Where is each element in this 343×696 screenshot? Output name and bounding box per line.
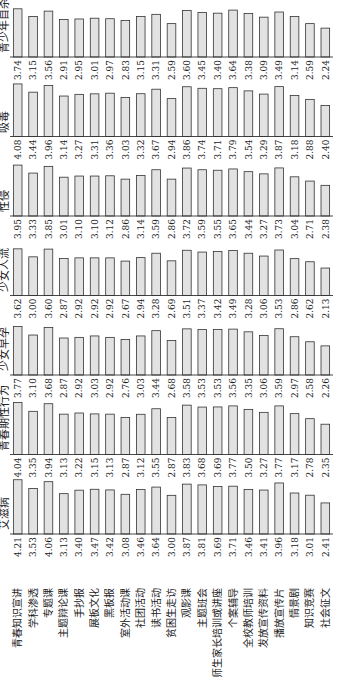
bar	[75, 413, 84, 455]
value-label: 3.65	[228, 219, 238, 239]
value-label: 4.21	[13, 537, 23, 557]
value-label: 3.53	[197, 378, 207, 398]
value-label: 2.13	[321, 298, 331, 318]
panel-title: 青少年自杀	[0, 0, 11, 53]
bar	[90, 258, 99, 296]
value-label: 4.06	[44, 537, 54, 557]
bar	[44, 166, 53, 216]
bar	[44, 11, 53, 57]
value-label: 3.87	[274, 139, 284, 159]
bar	[213, 251, 222, 295]
bar	[244, 13, 253, 57]
value-label: 2.91	[59, 60, 69, 80]
bar	[121, 97, 130, 136]
value-label: 3.72	[182, 219, 192, 239]
bar	[121, 339, 130, 375]
value-label: 3.44	[244, 219, 254, 239]
value-label: 3.08	[121, 537, 131, 557]
bar	[136, 258, 145, 296]
value-label: 3.55	[151, 457, 161, 477]
value-label: 3.15	[28, 60, 38, 80]
bar	[75, 94, 84, 136]
bar	[198, 13, 207, 57]
bar	[167, 418, 176, 455]
value-label: 4.04	[13, 457, 23, 477]
value-label: 3.14	[290, 60, 300, 80]
value-label: 3.37	[197, 298, 207, 318]
category-label: 师生家长培训或讲座	[211, 588, 223, 678]
bar	[13, 249, 22, 296]
bar	[29, 92, 38, 136]
value-label: 2.68	[167, 378, 177, 398]
bar	[275, 250, 284, 295]
value-label: 3.44	[151, 378, 161, 398]
bar	[44, 85, 53, 136]
bar	[290, 414, 299, 455]
bar	[244, 253, 253, 295]
bar	[198, 170, 207, 216]
value-label: 3.67	[151, 139, 161, 159]
bar	[321, 346, 330, 375]
value-label: 3.94	[44, 457, 54, 477]
value-label: 3.22	[74, 458, 84, 478]
category-label: 贫困生走访	[165, 588, 177, 638]
bar	[60, 414, 69, 454]
value-label: 3.06	[259, 298, 269, 318]
value-label: 3.35	[28, 457, 38, 477]
bar	[152, 331, 161, 375]
bar	[60, 494, 69, 534]
bar	[90, 94, 99, 137]
value-label: 3.54	[244, 139, 254, 159]
bar	[13, 326, 22, 375]
bar	[183, 168, 192, 216]
value-label: 3.04	[290, 219, 300, 239]
bar	[106, 176, 115, 216]
bar	[121, 261, 130, 295]
bar	[198, 485, 207, 534]
value-label: 2.24	[321, 60, 331, 80]
bar	[259, 336, 268, 375]
bar	[136, 414, 145, 454]
value-label: 3.42	[105, 537, 115, 557]
bar	[321, 424, 330, 454]
value-label: 3.27	[259, 219, 269, 239]
value-label: 2.87	[59, 298, 69, 318]
value-label: 3.64	[151, 537, 161, 557]
value-label: 3.13	[105, 457, 115, 477]
value-label: 2.59	[167, 60, 177, 80]
value-label: 2.94	[136, 298, 146, 318]
bar	[198, 252, 207, 295]
bar	[167, 99, 176, 137]
value-label: 3.31	[90, 140, 100, 160]
bar	[229, 10, 238, 57]
value-label: 3.14	[59, 139, 69, 159]
bar	[321, 268, 330, 295]
value-label: 3.56	[228, 378, 238, 398]
value-label: 3.12	[105, 219, 115, 239]
value-label: 3.51	[182, 299, 192, 319]
bar	[183, 87, 192, 137]
value-label: 2.26	[321, 378, 331, 398]
bar	[152, 170, 161, 216]
category-label: 社会征文	[319, 588, 331, 628]
bar	[75, 176, 84, 216]
value-label: 2.86	[121, 219, 131, 239]
value-label: 3.15	[90, 457, 100, 477]
bar	[13, 402, 22, 454]
bar	[321, 106, 330, 137]
bar	[213, 170, 222, 216]
bar	[213, 89, 222, 137]
value-label: 3.12	[136, 458, 146, 478]
bar	[306, 24, 315, 57]
bar	[229, 251, 238, 296]
bar	[29, 173, 38, 216]
value-label: 3.74	[13, 60, 23, 80]
category-label: 主题辩论课	[57, 588, 69, 638]
value-label: 3.56	[44, 60, 54, 80]
value-label: 3.64	[228, 60, 238, 80]
value-label: 3.35	[244, 378, 254, 398]
bar	[198, 407, 207, 454]
bar	[106, 414, 115, 454]
value-label: 3.74	[197, 139, 207, 159]
bar	[244, 489, 253, 534]
